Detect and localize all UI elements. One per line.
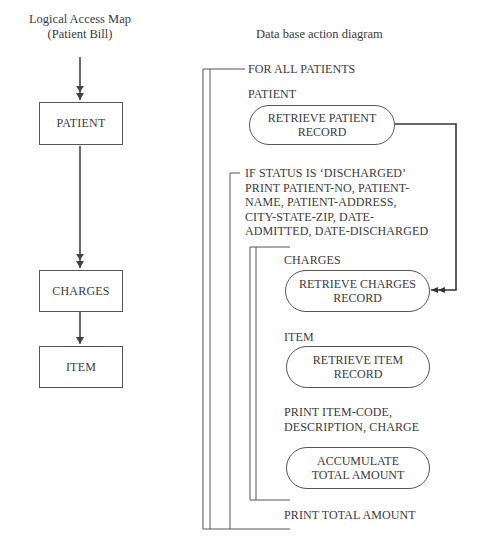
access-map-title: Logical Access Map (Patient Bill) bbox=[0, 12, 160, 42]
if-status-bracket bbox=[230, 173, 240, 529]
entity-label: ITEM bbox=[66, 360, 96, 375]
pill-line: RETRIEVE ITEM bbox=[313, 353, 403, 367]
arrowhead-icon bbox=[438, 287, 445, 293]
pill-line: TOTAL AMOUNT bbox=[312, 468, 405, 482]
arrowhead-icon bbox=[431, 287, 438, 293]
print-item-line: PRINT ITEM-CODE, bbox=[284, 405, 419, 420]
if-status-line: PRINT PATIENT-NO, PATIENT- bbox=[245, 181, 428, 196]
retrieve-patient-record: RETRIEVE PATIENT RECORD bbox=[249, 105, 395, 145]
patient-label: PATIENT bbox=[248, 87, 296, 102]
pill-line: ACCUMULATE bbox=[317, 454, 399, 468]
retrieve-charges-record: RETRIEVE CHARGES RECORD bbox=[285, 270, 430, 312]
arrowhead-icon bbox=[76, 337, 84, 344]
arrowhead-icon bbox=[76, 93, 84, 100]
charges-label: CHARGES bbox=[284, 253, 341, 268]
arrowhead-icon bbox=[76, 86, 84, 92]
action-diagram-title: Data base action diagram bbox=[256, 27, 416, 42]
retrieve-item-record: RETRIEVE ITEM RECORD bbox=[286, 346, 430, 388]
pill-line: RETRIEVE CHARGES bbox=[299, 277, 416, 291]
print-item-line: DESCRIPTION, CHARGE bbox=[284, 420, 419, 435]
entity-label: CHARGES bbox=[52, 284, 109, 299]
pill-line: RECORD bbox=[333, 291, 382, 305]
if-status-line: IF STATUS IS ‘DISCHARGED’ bbox=[245, 166, 428, 181]
print-total-amount-text: PRINT TOTAL AMOUNT bbox=[284, 508, 416, 523]
entity-box-patient: PATIENT bbox=[39, 102, 123, 145]
if-status-line: CITY-STATE-ZIP, DATE- bbox=[245, 210, 428, 225]
access-map-title-line2: (Patient Bill) bbox=[0, 27, 160, 42]
item-label: ITEM bbox=[284, 330, 314, 345]
pill-line: RETRIEVE PATIENT bbox=[268, 111, 377, 125]
for-all-patients-text: FOR ALL PATIENTS bbox=[248, 62, 355, 77]
if-status-line: ADMITTED, DATE-DISCHARGED bbox=[245, 224, 428, 239]
print-item-block: PRINT ITEM-CODE, DESCRIPTION, CHARGE bbox=[284, 405, 419, 434]
entity-label: PATIENT bbox=[57, 116, 106, 131]
arrowhead-icon bbox=[76, 261, 84, 268]
accumulate-total-amount: ACCUMULATE TOTAL AMOUNT bbox=[286, 447, 430, 489]
pill-line: RECORD bbox=[334, 367, 383, 381]
if-status-block: IF STATUS IS ‘DISCHARGED’ PRINT PATIENT-… bbox=[245, 166, 428, 239]
access-map-title-line1: Logical Access Map bbox=[0, 12, 160, 27]
if-status-line: NAME, PATIENT-ADDRESS, bbox=[245, 195, 428, 210]
arrowhead-icon bbox=[76, 254, 84, 260]
pill-line: RECORD bbox=[298, 125, 347, 139]
entity-box-charges: CHARGES bbox=[39, 270, 123, 312]
entity-box-item: ITEM bbox=[39, 346, 123, 388]
